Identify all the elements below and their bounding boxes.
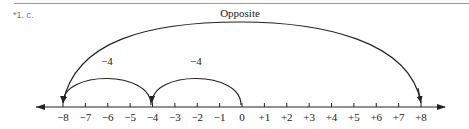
left-arrow-icon	[36, 104, 45, 110]
tick-marks	[63, 103, 421, 107]
tick-label: −3	[169, 111, 181, 123]
tick-label: +7	[393, 111, 405, 123]
tick-label: −5	[124, 111, 136, 123]
tick-label: −4	[147, 111, 159, 123]
tick-label: +3	[303, 111, 315, 123]
number-line-diagram: −8−7−6−5−4−3−2−10+1+2+3+4+5+6+7+8 Opposi…	[0, 0, 469, 129]
opposite-arc-right-head	[418, 88, 421, 103]
jump-arc-2	[63, 78, 151, 105]
jump-label-2: −4	[101, 55, 113, 67]
tick-label: +4	[326, 111, 338, 123]
jump-label-1: −4	[190, 55, 202, 67]
opposite-arc	[63, 22, 421, 103]
opposite-label: Opposite	[220, 7, 260, 19]
tick-label: −2	[191, 111, 203, 123]
tick-label: −1	[214, 111, 226, 123]
right-arrow-icon	[437, 104, 446, 110]
tick-label: +1	[259, 111, 271, 123]
tick-label: −6	[102, 111, 114, 123]
tick-label: +6	[370, 111, 382, 123]
tick-labels: −8−7−6−5−4−3−2−10+1+2+3+4+5+6+7+8	[57, 111, 427, 123]
tick-label: +2	[281, 111, 293, 123]
jump-arc-1	[152, 78, 241, 105]
tick-label: −7	[80, 111, 92, 123]
tick-label: −8	[57, 111, 69, 123]
tick-label: 0	[239, 111, 245, 123]
tick-label: +8	[415, 111, 427, 123]
tick-label: +5	[348, 111, 360, 123]
